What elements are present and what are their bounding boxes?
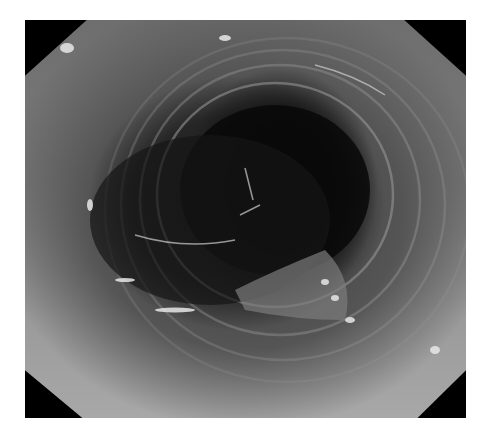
endoscopy-image-frame	[25, 20, 466, 418]
endoscopy-photo	[25, 20, 466, 418]
lumen-rings-overlay	[25, 20, 466, 418]
